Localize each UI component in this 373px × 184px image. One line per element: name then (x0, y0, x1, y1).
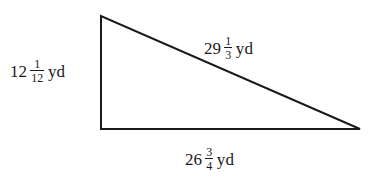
left-leg-unit: yd (48, 63, 65, 80)
hypotenuse-whole-number: 29 (204, 40, 221, 57)
left-leg-fraction: 112 (30, 58, 44, 84)
right-triangle-outline (101, 16, 360, 129)
bottom-leg-fraction: 34 (205, 146, 213, 172)
bottom-leg-numerator: 3 (205, 146, 213, 160)
hypotenuse-numerator: 1 (224, 35, 232, 49)
bottom-leg-whole-number: 26 (185, 151, 202, 168)
hypotenuse-fraction: 13 (224, 35, 232, 61)
left-leg-numerator: 1 (30, 58, 44, 72)
left-leg-length-label: 12112yd (10, 58, 65, 84)
hypotenuse-denominator: 3 (224, 48, 232, 61)
bottom-leg-denominator: 4 (205, 159, 213, 172)
triangle-figure: 12112yd 2913yd 2634yd (0, 0, 373, 184)
hypotenuse-length-label: 2913yd (204, 35, 253, 61)
hypotenuse-unit: yd (236, 40, 253, 57)
left-leg-whole-number: 12 (10, 63, 27, 80)
bottom-leg-length-label: 2634yd (185, 146, 234, 172)
left-leg-denominator: 12 (30, 71, 44, 84)
bottom-leg-unit: yd (217, 151, 234, 168)
